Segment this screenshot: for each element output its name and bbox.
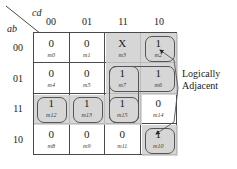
cell-value: 1 <box>156 38 162 49</box>
kmap-cell-m7[interactable]: 1 m7 <box>105 63 141 93</box>
cell-minterm-label: m3 <box>119 52 126 58</box>
kmap-cell-m4[interactable]: 0 m4 <box>34 63 70 93</box>
row-header-01: 01 <box>4 63 32 94</box>
row-header-00: 00 <box>4 32 32 63</box>
cell-value: 1 <box>156 68 162 79</box>
cell-minterm-label: m12 <box>46 112 56 118</box>
cell-minterm-label: m11 <box>117 143 127 149</box>
cell-value: X <box>118 38 126 49</box>
cell-value: 1 <box>84 98 90 109</box>
cell-value: 0 <box>156 98 162 109</box>
column-header-row: 00 01 11 10 <box>33 14 177 30</box>
cell-minterm-label: m14 <box>153 112 163 118</box>
annotation-line-1: Logically <box>182 68 220 79</box>
kmap-cell-m6[interactable]: 1 m6 <box>141 63 177 93</box>
kmap-cell-m3[interactable]: X m3 <box>105 33 141 63</box>
cell-value: 0 <box>49 38 55 49</box>
row-header-10: 10 <box>4 124 32 155</box>
cell-value: 0 <box>120 129 126 140</box>
annotation-line-2: Adjacent <box>182 80 220 92</box>
kmap-cell-m9[interactable]: 0 m9 <box>70 124 106 154</box>
cell-minterm-label: m15 <box>117 112 127 118</box>
cell-minterm-label: m6 <box>155 82 162 88</box>
cell-minterm-label: m10 <box>153 143 163 149</box>
cell-value: 0 <box>84 68 90 79</box>
kmap-cell-m13[interactable]: 1 m13 <box>70 94 106 124</box>
cell-minterm-label: m2 <box>155 52 162 58</box>
cell-minterm-label: m1 <box>83 52 90 58</box>
column-header-01: 01 <box>69 14 105 30</box>
kmap-cell-m1[interactable]: 0 m1 <box>70 33 106 63</box>
cell-minterm-label: m8 <box>48 143 55 149</box>
cell-minterm-label: m5 <box>83 82 90 88</box>
cell-value: 1 <box>120 98 126 109</box>
cell-minterm-label: m4 <box>48 82 55 88</box>
kmap-cell-m11[interactable]: 0 m11 <box>105 124 141 154</box>
cell-minterm-label: m9 <box>83 143 90 149</box>
cell-minterm-label: m0 <box>48 52 55 58</box>
cell-minterm-label: m13 <box>82 112 92 118</box>
karnaugh-map-figure: cd ab 00 01 11 10 00 01 11 10 0 m0 <box>0 0 237 169</box>
row-header-column: 00 01 11 10 <box>4 32 32 155</box>
kmap-cell-m15[interactable]: 1 m15 <box>105 94 141 124</box>
kmap-cell-m8[interactable]: 0 m8 <box>34 124 70 154</box>
cell-value: 0 <box>84 38 90 49</box>
column-header-11: 11 <box>105 14 141 30</box>
kmap-grid: 0 m0 0 m1 X m3 1 m2 0 m4 0 m5 1 m7 1 <box>33 32 177 155</box>
column-header-10: 10 <box>141 14 177 30</box>
kmap-cell-m14[interactable]: 0 m14 <box>141 94 177 124</box>
cell-value: 1 <box>49 98 55 109</box>
cell-value: 0 <box>49 68 55 79</box>
annotation-logically-adjacent: Logically Adjacent <box>182 68 220 92</box>
column-header-00: 00 <box>33 14 69 30</box>
kmap-cell-m2[interactable]: 1 m2 <box>141 33 177 63</box>
kmap-cell-m5[interactable]: 0 m5 <box>70 63 106 93</box>
kmap-cell-m12[interactable]: 1 m12 <box>34 94 70 124</box>
kmap-cell-m10[interactable]: 1 m10 <box>141 124 177 154</box>
cell-value: 1 <box>156 129 162 140</box>
cell-value: 0 <box>49 129 55 140</box>
cell-value: 1 <box>120 68 126 79</box>
kmap-cell-m0[interactable]: 0 m0 <box>34 33 70 63</box>
cell-value: 0 <box>84 129 90 140</box>
row-header-11: 11 <box>4 94 32 125</box>
cell-minterm-label: m7 <box>119 82 126 88</box>
